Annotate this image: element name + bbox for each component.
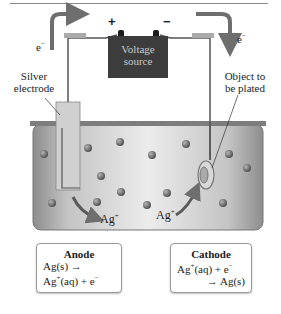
- cathode-electron-charge: −: [229, 262, 233, 270]
- cathode-reaction-box: Cathode Ag+(aq) + e− → Ag(s): [170, 243, 252, 293]
- ion-label-left: Ag+: [100, 212, 119, 227]
- anode-equation-line1: Ag(s) →: [43, 260, 115, 272]
- electron-flow-arrow-left: [52, 14, 78, 50]
- ion-symbol: Ag: [156, 208, 171, 222]
- silver-electrode-label-line1: Silver: [4, 70, 64, 82]
- object-label-line2: be plated: [214, 82, 276, 94]
- anode-title: Anode: [43, 248, 115, 260]
- silver-electrode-label-line2: electrode: [4, 82, 64, 94]
- ion-symbol: Ag: [100, 212, 115, 226]
- ion-charge: +: [171, 208, 175, 216]
- positive-sign: +: [108, 14, 116, 29]
- anode-ag: Ag: [43, 275, 56, 287]
- voltage-source: Voltage source: [108, 36, 168, 78]
- electron-charge: −: [41, 40, 45, 48]
- cathode-reactants: (aq) + e: [194, 263, 228, 275]
- cathode-equation-line2: → Ag(s): [177, 275, 245, 287]
- cathode-equation-line1: Ag+(aq) + e−: [177, 260, 245, 275]
- anode-products: (aq) + e: [60, 275, 94, 287]
- silver-electrode-label: Silver electrode: [4, 70, 64, 94]
- anode-equation-line2: Ag+(aq) + e−: [43, 272, 115, 287]
- anode-reaction-box: Anode Ag(s) → Ag+(aq) + e−: [36, 243, 122, 293]
- silver-electrode: [56, 102, 80, 190]
- ion-charge: +: [115, 212, 119, 220]
- object-to-be-plated-label: Object to be plated: [214, 70, 276, 94]
- voltage-source-label-1: Voltage: [108, 43, 168, 55]
- cathode-ag: Ag: [177, 263, 190, 275]
- negative-sign: −: [163, 14, 171, 29]
- electron-label-left: e−: [36, 38, 45, 53]
- ion-label-right: Ag+: [156, 208, 175, 223]
- anode-electron-charge: −: [95, 274, 99, 282]
- electron-flow-arrow-right: [196, 14, 230, 45]
- electron-label-right: e−: [237, 30, 246, 45]
- voltage-source-label-2: source: [108, 55, 168, 67]
- right-clip: [192, 33, 214, 38]
- cathode-title: Cathode: [177, 248, 245, 260]
- electron-charge: −: [242, 32, 246, 40]
- object-label-line1: Object to: [214, 70, 276, 82]
- left-clip: [64, 33, 86, 38]
- plated-object: [198, 161, 214, 189]
